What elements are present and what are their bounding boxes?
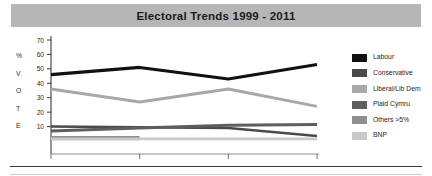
y-axis-name-letter: T <box>16 105 20 112</box>
page-title: Electoral Trends 1999 - 2011 <box>136 10 295 22</box>
y-axis-tick-label: 50 <box>37 65 45 72</box>
legend-item[interactable]: Others >5% <box>352 112 432 128</box>
y-axis-name-letter: V <box>16 70 21 77</box>
y-axis-tick-label: 20 <box>37 109 45 116</box>
series-line <box>51 65 317 79</box>
legend-swatch-icon <box>352 101 367 109</box>
legend-item-label: Plaid Cymru <box>373 101 410 108</box>
legend-swatch-icon <box>352 69 367 77</box>
footer-divider <box>10 166 422 167</box>
footer-divider-secondary <box>10 174 422 175</box>
chart-title-banner: Electoral Trends 1999 - 2011 <box>11 4 421 27</box>
legend-item[interactable]: BNP <box>352 128 432 144</box>
legend-item[interactable]: Conservative <box>352 66 432 82</box>
legend-item[interactable]: Plaid Cymru <box>352 97 432 113</box>
chart-page: Electoral Trends 1999 - 2011 10203040506… <box>0 0 432 176</box>
y-axis-name-letter: % <box>16 52 22 59</box>
series-line <box>51 89 317 106</box>
legend-item[interactable]: Labour <box>352 50 432 66</box>
legend-item-label: Labour <box>373 54 394 61</box>
legend-item-label: BNP <box>373 132 387 139</box>
legend-swatch-icon <box>352 85 367 93</box>
y-axis-name-letter: O <box>16 87 21 94</box>
y-axis-tick-label: 70 <box>37 37 45 44</box>
legend-swatch-icon <box>352 132 367 140</box>
chart-legend: LabourConservativeLiberal/Lib DemPlaid C… <box>352 50 432 144</box>
y-axis-tick-label: 60 <box>37 51 45 58</box>
legend-item-label: Liberal/Lib Dem <box>373 86 421 93</box>
legend-swatch-icon <box>352 116 367 124</box>
legend-swatch-icon <box>352 54 367 62</box>
y-axis-tick-label: 30 <box>37 94 45 101</box>
legend-item-label: Others >5% <box>373 117 409 124</box>
y-axis-tick-label: 40 <box>37 80 45 87</box>
legend-item[interactable]: Liberal/Lib Dem <box>352 81 432 97</box>
y-axis-tick-label: 10 <box>37 123 45 130</box>
y-axis-name-letter: E <box>16 122 21 129</box>
legend-item-label: Conservative <box>373 70 413 77</box>
